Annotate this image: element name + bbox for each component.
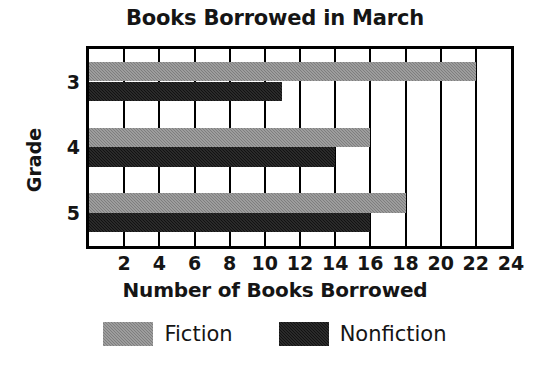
legend-entry-fiction[interactable]: Fiction xyxy=(103,322,232,346)
legend-swatch-nonfiction-icon xyxy=(279,322,329,346)
bar-nonfiction-grade-4 xyxy=(89,147,335,166)
legend-swatch-fiction-icon xyxy=(103,322,153,346)
x-tick-label-4: 4 xyxy=(153,252,166,274)
plot-inner xyxy=(89,49,511,246)
bar-chart: Books Borrowed in March Grade 345 246810… xyxy=(0,0,550,375)
legend-entry-nonfiction[interactable]: Nonfiction xyxy=(279,322,447,346)
bar-fiction-grade-4 xyxy=(89,128,370,147)
x-tick-label-18: 18 xyxy=(392,252,418,274)
plot-area xyxy=(86,46,514,249)
y-axis-title: Grade xyxy=(14,100,54,220)
x-tick-label-16: 16 xyxy=(357,252,383,274)
x-tick-label-6: 6 xyxy=(188,252,201,274)
y-tick-label-grade-4: 4 xyxy=(56,136,80,158)
legend-label-fiction: Fiction xyxy=(164,322,232,346)
x-tick-label-2: 2 xyxy=(118,252,131,274)
x-tick-label-10: 10 xyxy=(252,252,278,274)
bar-fiction-grade-3 xyxy=(89,62,476,81)
x-tick-label-22: 22 xyxy=(463,252,489,274)
bar-nonfiction-grade-3 xyxy=(89,82,282,101)
x-tick-label-12: 12 xyxy=(287,252,313,274)
y-tick-label-grade-3: 3 xyxy=(56,71,80,93)
y-axis-title-text: Grade xyxy=(23,128,45,192)
chart-title: Books Borrowed in March xyxy=(0,6,550,30)
y-tick-label-grade-5: 5 xyxy=(56,202,80,224)
x-tick-label-14: 14 xyxy=(322,252,348,274)
x-axis-title: Number of Books Borrowed xyxy=(0,278,550,302)
x-tick-label-20: 20 xyxy=(427,252,453,274)
bar-fiction-grade-5 xyxy=(89,193,406,212)
bar-nonfiction-grade-5 xyxy=(89,213,370,232)
chart-legend: FictionNonfiction xyxy=(0,322,550,346)
x-tick-label-8: 8 xyxy=(223,252,236,274)
legend-label-nonfiction: Nonfiction xyxy=(340,322,447,346)
x-tick-label-24: 24 xyxy=(498,252,524,274)
